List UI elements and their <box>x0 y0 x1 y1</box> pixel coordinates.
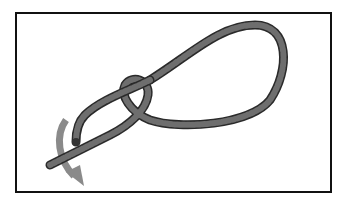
rope <box>50 25 284 165</box>
knot-illustration <box>0 0 350 208</box>
